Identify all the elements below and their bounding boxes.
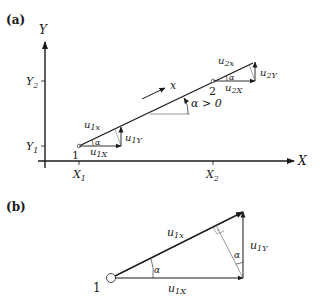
y-axis-label: Y [39, 23, 48, 37]
angle-positive-label: α > 0 [191, 97, 222, 110]
u2Y-label: u2Y [260, 67, 278, 80]
u1Y-vert-label: u1Y [250, 239, 268, 253]
x2-tick-label: X2 [205, 168, 219, 183]
u2x-label: u2x [218, 55, 235, 68]
point-2-label: 2 [209, 85, 216, 98]
inclined-x-line [79, 63, 253, 146]
u1X-base-label: u1X [168, 282, 186, 296]
panel-a-label: (a) [6, 13, 25, 27]
y1-tick-label: Y1 [26, 140, 38, 155]
x-axis-label: X [297, 154, 307, 168]
velocity-component-diagram: (a) Y X Y2 Y1 X1 X2 x α > 0 1 α u1x u1X … [0, 0, 321, 302]
panel-b-label: (b) [6, 200, 26, 214]
base-angle-arc [151, 259, 153, 278]
top-angle-arc [236, 262, 243, 264]
u1x-hyp-label: u1x [167, 226, 184, 240]
point-1-label: 1 [72, 149, 79, 162]
top-angle-label: α [234, 250, 240, 260]
x-direction-arrow [142, 88, 165, 99]
u2X-label: u2X [225, 82, 243, 95]
x-direction-label: x [170, 79, 177, 92]
u1Y-label: u1Y [125, 132, 143, 145]
point-1-circle [107, 274, 116, 283]
u1X-label: u1X [90, 146, 108, 159]
panel-b-point-label: 1 [93, 281, 101, 295]
u1x-label: u1x [84, 119, 101, 132]
y2-tick-label: Y2 [26, 75, 38, 90]
x1-tick-label: X1 [72, 168, 86, 183]
angle-arc [184, 98, 188, 114]
u1x-hypotenuse-vector [115, 212, 243, 276]
u2-projection-line [249, 64, 255, 81]
u2-angle-label: α [229, 73, 235, 82]
base-angle-label: α [154, 265, 160, 275]
u1-projection-line [115, 129, 121, 146]
right-angle-dot [218, 230, 219, 231]
